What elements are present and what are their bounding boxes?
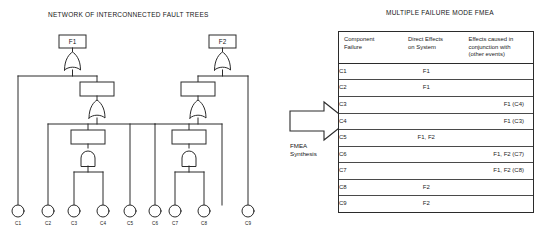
cell-component-failure: C5 <box>339 130 403 147</box>
intermediate-box-B3 <box>181 82 215 96</box>
fmea-header-row: Component Failure Direct Effects on Syst… <box>339 32 533 63</box>
table-row: C5F1, F2 <box>339 130 533 147</box>
cell-component-failure: C1 <box>339 63 403 80</box>
cell-direct-effects <box>403 146 463 163</box>
header-line: Failure <box>344 44 403 52</box>
figure-root: NETWORK OF INTERCONNECTED FAULT TREES MU… <box>0 0 544 234</box>
cell-direct-effects <box>403 113 463 130</box>
or-gate-G1 <box>65 52 81 70</box>
cell-component-failure: C7 <box>339 163 403 180</box>
and-gate-G6 <box>182 151 196 166</box>
svg-text:C1: C1 <box>15 221 21 226</box>
header-conjunction-effects: Effects caused in conjunction with (othe… <box>464 32 533 63</box>
cell-direct-effects: F1 <box>403 80 463 97</box>
basic-event-C6: C6 <box>149 205 161 226</box>
header-line: Component <box>344 36 403 44</box>
header-line: Effects caused in <box>469 36 533 44</box>
top-event-F1: F1 <box>59 35 86 48</box>
synthesis-line-2: Synthesis <box>290 150 317 158</box>
cell-direct-effects: F2 <box>403 179 463 196</box>
svg-text:C6: C6 <box>152 221 158 226</box>
cell-conjunction-effects <box>464 130 533 147</box>
fault-tree-diagram: F1 F2 <box>0 0 290 234</box>
svg-text:C9: C9 <box>245 221 251 226</box>
cell-component-failure: C4 <box>339 113 403 130</box>
top-event-F2: F2 <box>209 35 236 48</box>
cell-direct-effects: F1 <box>403 63 463 80</box>
svg-text:C8: C8 <box>201 221 207 226</box>
basic-event-C1: C1 <box>12 205 24 226</box>
table-row: C1F1 <box>339 63 533 80</box>
cell-conjunction-effects: F1 (C3) <box>464 113 533 130</box>
basic-event-C7: C7 <box>169 205 181 226</box>
basic-event-C5: C5 <box>124 205 136 226</box>
svg-text:C2: C2 <box>45 221 51 226</box>
intermediate-box-B4 <box>172 130 206 144</box>
cell-component-failure: C6 <box>339 146 403 163</box>
fmea-table-body: C1F1C2F1C3F1 (C4)C4F1 (C3)C5F1, F2C6F1, … <box>339 63 533 212</box>
cell-conjunction-effects: F1, F2 (C7) <box>464 146 533 163</box>
table-row: C2F1 <box>339 80 533 97</box>
cell-conjunction-effects <box>464 196 533 212</box>
cell-conjunction-effects <box>464 179 533 196</box>
right-panel-title: MULTIPLE FAILURE MODE FMEA <box>386 9 494 16</box>
fmea-synthesis-label: FMEA Synthesis <box>290 142 317 159</box>
cell-conjunction-effects <box>464 80 533 97</box>
header-line: conjunction with <box>469 44 533 52</box>
cell-direct-effects: F2 <box>403 196 463 212</box>
cell-component-failure: C8 <box>339 179 403 196</box>
basic-event-C3: C3 <box>68 205 80 226</box>
cell-conjunction-effects <box>464 63 533 80</box>
or-gate-G4 <box>215 52 231 70</box>
intermediate-box-B1 <box>80 82 114 96</box>
header-component-failure: Component Failure <box>339 32 403 63</box>
synthesis-line-1: FMEA <box>290 142 317 150</box>
cell-direct-effects: F1, F2 <box>403 130 463 147</box>
header-line: on System <box>408 44 463 52</box>
svg-text:F1: F1 <box>69 38 77 45</box>
cell-conjunction-effects: F1 (C4) <box>464 96 533 113</box>
table-row: C4F1 (C3) <box>339 113 533 130</box>
table-row: C3F1 (C4) <box>339 96 533 113</box>
or-gate-G2 <box>89 100 105 118</box>
basic-event-C2: C2 <box>42 205 54 226</box>
svg-text:C4: C4 <box>100 221 106 226</box>
header-direct-effects: Direct Effects on System <box>403 32 463 63</box>
cell-component-failure: C3 <box>339 96 403 113</box>
header-line: (other events) <box>469 51 533 59</box>
fmea-table-head: Component Failure Direct Effects on Syst… <box>339 32 533 63</box>
svg-text:C7: C7 <box>172 221 178 226</box>
cell-direct-effects <box>403 163 463 180</box>
header-line: Direct Effects <box>408 36 463 44</box>
table-row: C9F2 <box>339 196 533 212</box>
and-gate-G3 <box>81 151 95 166</box>
cell-conjunction-effects: F1, F2 (C8) <box>464 163 533 180</box>
table-row: C6F1, F2 (C7) <box>339 146 533 163</box>
cell-component-failure: C9 <box>339 196 403 212</box>
basic-event-C8: C8 <box>198 205 210 226</box>
svg-text:C3: C3 <box>71 221 77 226</box>
svg-text:F2: F2 <box>219 38 227 45</box>
basic-event-C9: C9 <box>242 205 254 226</box>
cell-direct-effects <box>403 96 463 113</box>
basic-event-C4: C4 <box>97 205 109 226</box>
fmea-table: Component Failure Direct Effects on Syst… <box>339 32 533 212</box>
table-row: C8F2 <box>339 179 533 196</box>
fmea-table-container: Component Failure Direct Effects on Syst… <box>338 31 534 213</box>
intermediate-box-B2 <box>71 130 105 144</box>
svg-text:C5: C5 <box>127 221 133 226</box>
table-row: C7F1, F2 (C8) <box>339 163 533 180</box>
cell-component-failure: C2 <box>339 80 403 97</box>
or-gate-G5 <box>190 100 206 118</box>
